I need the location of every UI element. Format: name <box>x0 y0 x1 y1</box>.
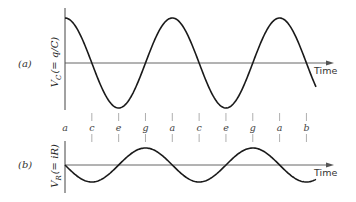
phase-label-a: a <box>169 122 175 133</box>
panel-b-label: (b) <box>18 159 32 170</box>
panel-b-ylabel: VR(= iR) <box>49 144 63 188</box>
phase-label-g: g <box>250 122 256 133</box>
phase-label-e: e <box>116 122 122 133</box>
phase-label-b: b <box>303 122 309 133</box>
panel-a: Time (a) VC(= q/C) <box>18 8 337 110</box>
phase-markers: acegacegab <box>62 113 309 142</box>
panel-a-time-label: Time <box>313 65 337 76</box>
panel-b-time-label: Time <box>313 167 337 178</box>
svg-text:VC(= q/C): VC(= q/C) <box>49 37 63 87</box>
phase-label-g: g <box>142 122 148 133</box>
panel-a-ylabel: VC(= q/C) <box>49 37 63 87</box>
svg-text:VR(= iR): VR(= iR) <box>49 144 63 188</box>
panel-b: Time (b) VR(= iR) <box>18 141 337 193</box>
phase-label-c: c <box>89 122 95 133</box>
phase-label-a: a <box>277 122 283 133</box>
phase-label-c: c <box>196 122 202 133</box>
phase-label-e: e <box>223 122 229 133</box>
panel-a-label: (a) <box>18 58 32 69</box>
phase-label-a: a <box>62 122 68 133</box>
lc-oscillation-diagram: Time (a) VC(= q/C) acegacegab Time (b) V… <box>0 0 356 202</box>
